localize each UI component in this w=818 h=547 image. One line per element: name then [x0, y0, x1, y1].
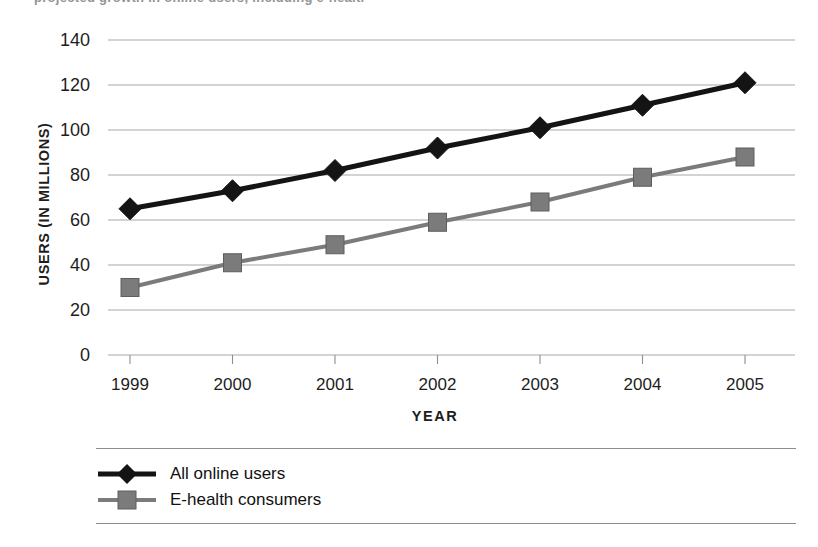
y-axis-tick-label: 40 [34, 256, 90, 274]
data-point-marker [324, 160, 346, 182]
data-point-marker [222, 180, 244, 202]
data-point-marker [634, 168, 652, 186]
y-axis-tick-label: 20 [34, 301, 90, 319]
x-axis-tick-label: 2004 [603, 376, 683, 393]
legend-square-icon [96, 487, 158, 513]
data-point-marker [531, 193, 549, 211]
y-axis-tick-label: 60 [34, 211, 90, 229]
series-lines [130, 83, 745, 288]
data-point-marker [429, 213, 447, 231]
data-point-marker [427, 137, 449, 159]
x-axis-ticks [130, 355, 745, 364]
x-axis-tick-label: 1999 [90, 376, 170, 393]
legend-item: E-health consumers [96, 487, 796, 513]
x-axis-tick-label: 2000 [193, 376, 273, 393]
x-axis-tick-label: 2005 [705, 376, 785, 393]
data-point-marker [734, 72, 756, 94]
data-point-marker [119, 198, 141, 220]
y-axis-tick-label: 0 [34, 346, 90, 364]
legend: All online usersE-health consumers [96, 448, 796, 524]
x-axis-tick-label: 2001 [295, 376, 375, 393]
y-axis-tick-label: 100 [34, 121, 90, 139]
y-axis-tick-label: 80 [34, 166, 90, 184]
data-point-marker [736, 148, 754, 166]
data-point-marker [326, 236, 344, 254]
x-axis-title: YEAR [380, 408, 490, 424]
data-point-marker [121, 279, 139, 297]
legend-entries: All online usersE-health consumers [96, 449, 796, 523]
legend-label: All online users [170, 464, 285, 484]
legend-bottom-rule [96, 523, 796, 524]
legend-item: All online users [96, 461, 796, 487]
x-axis-tick-label: 2002 [398, 376, 478, 393]
legend-label: E-health consumers [170, 490, 321, 510]
data-point-marker [529, 117, 551, 139]
series-markers [119, 72, 756, 297]
gridlines [108, 40, 795, 355]
y-axis-tick-label: 140 [34, 31, 90, 49]
data-point-marker [224, 254, 242, 272]
legend-diamond-icon [96, 461, 158, 487]
data-point-marker [632, 94, 654, 116]
y-axis-tick-label: 120 [34, 76, 90, 94]
x-axis-tick-label: 2003 [500, 376, 580, 393]
line-chart: USERS (IN MILLIONS) 020406080100120140 1… [0, 0, 818, 547]
